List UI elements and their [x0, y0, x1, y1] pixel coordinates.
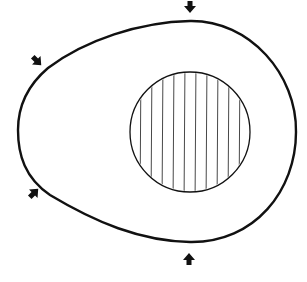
- inner-circle: [130, 72, 250, 192]
- diagram-canvas: [0, 0, 307, 282]
- arrow-bottom-icon: [183, 253, 195, 265]
- arrow-upper-left-icon: [29, 53, 46, 70]
- egg-outline: [18, 21, 296, 242]
- arrow-top-icon: [184, 1, 196, 13]
